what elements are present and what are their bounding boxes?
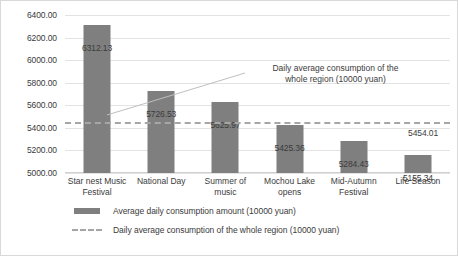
bar-data-label: 6312.13	[82, 43, 112, 53]
category-label-line-1: Mid-Autumn	[322, 176, 386, 187]
category-label-line-1: Summer of	[193, 176, 257, 187]
legend-dashed-line-icon	[61, 229, 113, 231]
category-label-line-2: music	[193, 187, 257, 198]
annotation-line-2: whole region (10000 yuan)	[248, 74, 423, 85]
bar-slot: 5155.34	[386, 15, 450, 173]
bar-slot: 5625.97	[193, 15, 257, 173]
x-axis-category-label: National Day	[129, 176, 193, 187]
y-axis: 6400.006200.006000.005800.005600.005400.…	[1, 15, 61, 173]
bar-data-label: 5425.36	[275, 143, 305, 153]
bar-slot: 5284.43	[322, 15, 386, 173]
bar-data-label: 5284.43	[339, 159, 369, 169]
y-axis-tick-label: 6000.00	[27, 55, 57, 65]
y-axis-tick-label: 5200.00	[27, 145, 57, 155]
y-axis-tick-label: 6200.00	[27, 33, 57, 43]
legend-bar-swatch-icon	[61, 208, 113, 214]
legend-item-average-line: Daily average consumption of the whole r…	[61, 225, 401, 235]
x-axis-category-label: Mochou Lakeopens	[258, 176, 322, 198]
category-label-line-2: Festival	[65, 187, 129, 198]
plot-area: 6312.135726.535625.975425.365284.435155.…	[65, 15, 450, 173]
legend-label-average-line: Daily average consumption of the whole r…	[113, 225, 339, 235]
average-line-value-label: 5454.01	[408, 128, 438, 138]
category-label-line-1: Star nest Music	[65, 176, 129, 187]
y-axis-tick-label: 5400.00	[27, 123, 57, 133]
legend-label-bars: Average daily consumption amount (10000 …	[113, 206, 296, 216]
bar-slot: 5425.36	[258, 15, 322, 173]
category-label-line-2: Festival	[322, 187, 386, 198]
annotation-line-1: Daily average consumption of the	[248, 63, 423, 74]
bar[interactable]	[212, 102, 239, 173]
y-axis-tick-label: 5600.00	[27, 100, 57, 110]
x-axis-category-label: Life Season	[386, 176, 450, 187]
annotation-text: Daily average consumption of the whole r…	[248, 63, 423, 85]
x-axis-category-label: Star nest MusicFestival	[65, 176, 129, 198]
bar[interactable]	[404, 155, 431, 173]
average-reference-line[interactable]	[65, 122, 450, 124]
y-axis-tick-label: 5800.00	[27, 78, 57, 88]
x-axis-category-label: Summer ofmusic	[193, 176, 257, 198]
y-axis-tick-label: 6400.00	[27, 10, 57, 20]
bar[interactable]	[148, 91, 175, 173]
gridline	[65, 173, 450, 174]
chart-legend: Average daily consumption amount (10000 …	[61, 204, 401, 244]
y-axis-tick-label: 5000.00	[27, 168, 57, 178]
x-axis-category-label: Mid-AutumnFestival	[322, 176, 386, 198]
x-axis-category-labels: Star nest MusicFestivalNational DaySumme…	[65, 176, 450, 204]
bar-chart-figure: 6400.006200.006000.005800.005600.005400.…	[0, 0, 458, 256]
category-label-line-1: Mochou Lake	[258, 176, 322, 187]
category-label-line-1: National Day	[129, 176, 193, 187]
category-label-line-1: Life Season	[386, 176, 450, 187]
bar-slot: 6312.13	[65, 15, 129, 173]
bar-slot: 5726.53	[129, 15, 193, 173]
category-label-line-2: opens	[258, 187, 322, 198]
bar-data-label: 5726.53	[146, 109, 176, 119]
legend-item-bars: Average daily consumption amount (10000 …	[61, 206, 401, 216]
